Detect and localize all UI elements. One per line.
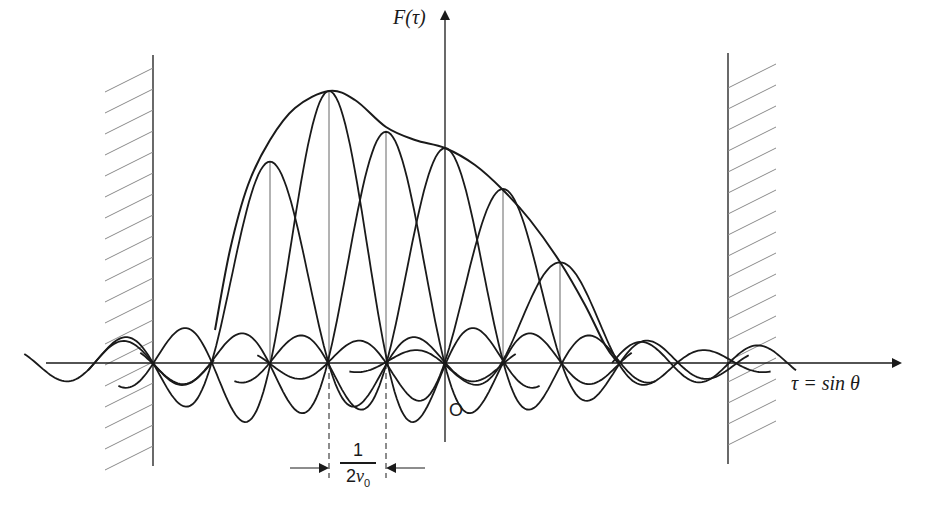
beam-spacing-label: 1 2ν0 [336, 440, 380, 492]
x-axis-label: τ = sin θ [791, 372, 860, 395]
spacing-denominator: 2ν0 [336, 466, 380, 493]
x-axis-label-text: τ = sin θ [791, 372, 860, 394]
y-axis-label: F(τ) [393, 6, 426, 29]
component-beams [24, 91, 796, 422]
beam-synthesis-diagram: F(τ) τ = sin θ O 1 2ν0 [0, 0, 943, 516]
fraction-bar [340, 462, 376, 464]
spacing-numerator: 1 [336, 440, 380, 460]
denominator-var: ν [356, 466, 364, 486]
right-boundary-wall [728, 53, 776, 464]
left-boundary-wall [105, 55, 153, 470]
denominator-sub: 0 [364, 476, 370, 488]
y-axis-label-text: F(τ) [393, 6, 426, 28]
plot-canvas [0, 0, 943, 516]
denominator-prefix: 2 [346, 466, 356, 486]
origin-label: O [449, 400, 463, 421]
